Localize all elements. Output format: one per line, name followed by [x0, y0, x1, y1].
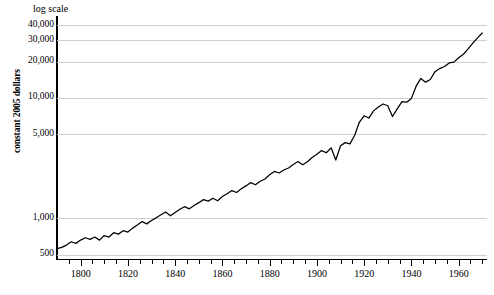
- series-layer: [0, 0, 494, 295]
- line-gdp-per-capita: [57, 33, 482, 249]
- chart-figure: constant 2005 dollars log scale 5001,000…: [0, 0, 494, 295]
